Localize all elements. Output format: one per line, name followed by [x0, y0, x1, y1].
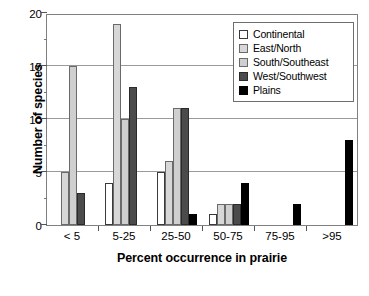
bar	[165, 161, 173, 225]
x-tick-label: < 5	[64, 230, 80, 242]
legend-swatch-icon	[239, 58, 248, 67]
bar	[121, 119, 129, 225]
x-tick-label: 5-25	[112, 230, 135, 242]
y-tick-label: 20	[12, 8, 42, 20]
y-tick-label: 5	[12, 167, 42, 179]
legend-swatch-icon	[239, 30, 248, 39]
bar	[61, 172, 69, 225]
y-tick-major	[41, 12, 47, 13]
y-tick-label: 0	[12, 220, 42, 232]
bar	[77, 193, 85, 225]
legend-label: East/North	[253, 43, 301, 54]
y-tick-minor	[44, 39, 48, 40]
y-tick-label: 10	[12, 114, 42, 126]
x-tick-label: >95	[322, 230, 342, 242]
bar	[293, 204, 301, 225]
bar	[129, 87, 137, 225]
bar	[189, 214, 197, 225]
x-tick-label: 25-50	[161, 230, 190, 242]
bar	[181, 108, 189, 225]
legend-item[interactable]: East/North	[239, 41, 348, 55]
legend-swatch-icon	[239, 44, 248, 53]
bar	[209, 214, 217, 225]
bar	[105, 183, 113, 225]
legend-item[interactable]: West/Southwest	[239, 69, 348, 83]
bar	[157, 172, 165, 225]
bar	[233, 204, 241, 225]
legend-label: Continental	[253, 29, 304, 40]
y-tick-minor	[44, 92, 48, 93]
chart-figure: Number of species 05101520 < 55-2525-505…	[0, 0, 369, 296]
bar	[241, 183, 249, 225]
y-tick-major	[41, 65, 47, 66]
y-tick-label: 15	[12, 61, 42, 73]
legend-swatch-icon	[239, 86, 248, 95]
gridline	[47, 118, 357, 119]
legend-swatch-icon	[239, 72, 248, 81]
bar	[69, 66, 77, 225]
legend-label: South/Southeast	[253, 57, 328, 68]
legend-label: West/Southwest	[253, 71, 327, 82]
x-axis-tick-labels: < 55-2525-5050-7575-95>95	[46, 230, 358, 248]
y-tick-major	[41, 224, 47, 225]
y-axis-tick-labels: 05101520	[12, 14, 42, 226]
chart-legend: ContinentalEast/NorthSouth/SoutheastWest…	[233, 22, 354, 102]
bar	[225, 204, 233, 225]
x-tick-label: 50-75	[213, 230, 242, 242]
x-axis-title: Percent occurrence in prairie	[46, 251, 358, 265]
x-tick-label: 75-95	[265, 230, 294, 242]
bar	[173, 108, 181, 225]
y-tick-major	[41, 171, 47, 172]
gridline	[47, 171, 357, 172]
y-tick-major	[41, 118, 47, 119]
bar	[217, 204, 225, 225]
legend-item[interactable]: South/Southeast	[239, 55, 348, 69]
bar	[345, 140, 353, 225]
legend-item[interactable]: Plains	[239, 83, 348, 97]
y-tick-minor	[44, 145, 48, 146]
legend-item[interactable]: Continental	[239, 27, 348, 41]
legend-label: Plains	[253, 85, 281, 96]
y-tick-minor	[44, 198, 48, 199]
bar	[113, 24, 121, 225]
